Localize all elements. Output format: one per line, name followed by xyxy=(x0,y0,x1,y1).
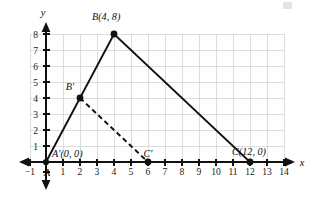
graph-canvas: −1 1 2 3 4 5 6 7 8 9 10 11 12 13 14 1 2 … xyxy=(0,0,313,200)
x-tick-label-12: 12 xyxy=(245,166,255,177)
x-tick-label-10: 10 xyxy=(211,166,221,177)
y-tick-label-7: 7 xyxy=(33,45,38,56)
coordinate-plane-figure: −1 1 2 3 4 5 6 7 8 9 10 11 12 13 14 1 2 … xyxy=(0,0,313,200)
label-point-c-prime: C′ xyxy=(143,148,153,159)
point-b-prime xyxy=(77,95,84,102)
x-axis-label: x xyxy=(299,157,305,168)
x-tick-label-9: 9 xyxy=(197,166,202,177)
point-c-prime xyxy=(145,159,152,166)
y-tick-label-1: 1 xyxy=(33,141,38,152)
x-axis-tick-labels: −1 1 2 3 4 5 6 7 8 9 10 11 12 13 14 xyxy=(25,166,289,177)
x-tick-label-6: 6 xyxy=(146,166,151,177)
x-tick-label-8: 8 xyxy=(180,166,185,177)
x-tick-label-13: 13 xyxy=(262,166,272,177)
point-a xyxy=(43,159,49,165)
x-tick-label-5: 5 xyxy=(129,166,134,177)
label-point-b-prime: B′ xyxy=(66,81,75,92)
label-point-a-prime: A′(0, 0) xyxy=(51,148,83,160)
x-tick-label-1: 1 xyxy=(61,166,66,177)
x-tick-label-4: 4 xyxy=(112,166,117,177)
x-tick-label-neg1: −1 xyxy=(25,166,35,177)
x-tick-label-14: 14 xyxy=(279,166,289,177)
y-axis-arrow-up xyxy=(42,22,51,32)
label-point-c: C(12, 0) xyxy=(232,146,267,158)
y-tick-label-5: 5 xyxy=(33,77,38,88)
grid-lines xyxy=(30,34,284,162)
x-tick-label-7: 7 xyxy=(163,166,168,177)
x-tick-label-2: 2 xyxy=(78,166,83,177)
y-tick-label-6: 6 xyxy=(33,61,38,72)
y-tick-label-4: 4 xyxy=(33,93,38,104)
y-axis-label: y xyxy=(40,7,46,18)
label-point-a: A xyxy=(43,167,51,178)
y-axis-arrow-down xyxy=(42,180,51,190)
label-point-b: B(4, 8) xyxy=(92,11,121,23)
x-tick-label-11: 11 xyxy=(228,166,237,177)
y-tick-label-2: 2 xyxy=(33,125,38,136)
point-c xyxy=(247,159,254,166)
y-tick-label-8: 8 xyxy=(33,29,38,40)
point-b xyxy=(111,31,118,38)
scan-artifact-smudge xyxy=(283,2,292,9)
x-tick-label-3: 3 xyxy=(95,166,100,177)
y-tick-label-3: 3 xyxy=(33,109,38,120)
y-axis-tick-labels: 1 2 3 4 5 6 7 8 xyxy=(33,29,38,152)
